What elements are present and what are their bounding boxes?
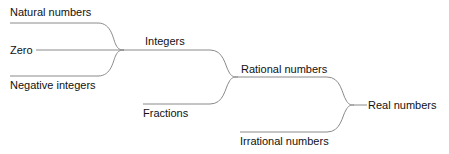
label-rational-numbers: Rational numbers bbox=[241, 63, 327, 75]
edge-irrational-real bbox=[240, 105, 354, 132]
label-zero: Zero bbox=[10, 44, 33, 56]
label-fractions: Fractions bbox=[143, 107, 188, 119]
edge-fractions-rational bbox=[143, 77, 238, 104]
label-natural-numbers: Natural numbers bbox=[10, 6, 91, 18]
label-irrational-numbers: Irrational numbers bbox=[240, 135, 329, 147]
label-real-numbers: Real numbers bbox=[368, 99, 436, 111]
edge-rational-real bbox=[238, 77, 354, 105]
label-integers: Integers bbox=[145, 35, 185, 47]
label-negative-integers: Negative integers bbox=[10, 79, 96, 91]
edge-integers-rational bbox=[124, 50, 238, 77]
connector-lines bbox=[0, 0, 449, 154]
